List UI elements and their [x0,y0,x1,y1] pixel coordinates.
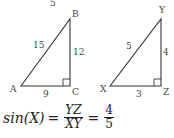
equals-sign-2: = [88,110,100,126]
sine-equation: sin(X) = YZ XY = 4 5 [3,104,116,131]
side-xy-label: 5 [126,41,132,51]
side-ab-label: 15 [33,40,45,50]
vertex-y: Y [158,5,166,15]
vertex-b: B [72,9,79,19]
fraction-2-numerator: 4 [104,104,114,118]
vertex-z: Z [163,87,169,97]
fraction-2-denominator: 5 [105,118,113,131]
fraction-1-denominator: XY [65,118,81,131]
fraction-yz-xy: YZ XY [64,104,82,131]
side-bc-label: 12 [73,47,84,57]
triangle-abc: 5 B A C 15 12 9 [9,0,84,99]
equals-sign-1: = [48,110,60,126]
fraction-1-numerator: YZ [64,104,82,118]
triangle-xyz: Y X Z 5 4 3 [100,5,169,99]
side-xz-label: 3 [136,89,142,99]
vertex-x: X [100,84,107,94]
top-label: 5 [50,0,56,8]
side-ac-label: 9 [43,89,49,99]
vertex-a: A [9,84,17,94]
fraction-4-5: 4 5 [104,104,114,131]
right-angle-marker-c [63,79,70,86]
right-angle-marker-z [154,79,161,86]
equation-lhs: sin(X) [3,110,45,126]
vertex-c: C [72,87,79,97]
side-yz-label: 4 [163,47,169,57]
